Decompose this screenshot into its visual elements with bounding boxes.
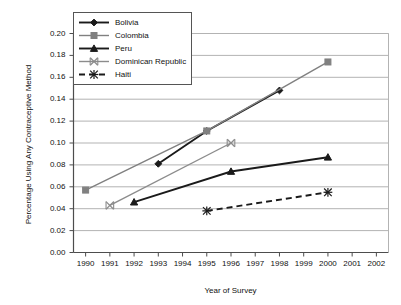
legend-label: Colombia	[111, 31, 149, 40]
y-tick-label: 0.04	[32, 204, 66, 213]
series-line	[134, 157, 328, 202]
legend-item-bolivia[interactable]: Bolivia	[77, 16, 186, 29]
legend-swatch-triangle-icon	[77, 42, 111, 55]
legend-item-dominican-republic[interactable]: Dominican Republic	[77, 55, 186, 68]
series-line	[158, 90, 279, 163]
y-tick-label: 0.16	[32, 72, 66, 81]
legend-label: Peru	[111, 44, 132, 53]
legend-label: Haiti	[111, 70, 131, 79]
y-tick-label: 0.14	[32, 94, 66, 103]
y-tick-label: 0.06	[32, 182, 66, 191]
y-tick-label: 0.08	[32, 160, 66, 169]
data-point-asterisk	[202, 206, 211, 215]
data-point-x-cross	[106, 202, 114, 210]
y-tick-label: 0.12	[32, 116, 66, 125]
chart-figure: Percentage Using Any Contraceptive Metho…	[0, 0, 401, 305]
y-tick-label: 0.10	[32, 138, 66, 147]
data-point-asterisk	[324, 188, 333, 197]
legend-item-peru[interactable]: Peru	[77, 42, 186, 55]
data-point-asterisk	[90, 70, 99, 79]
legend-item-colombia[interactable]: Colombia	[77, 29, 186, 42]
legend-swatch-asterisk-icon	[77, 68, 111, 81]
y-tick-label: 0.02	[32, 226, 66, 235]
data-point-square	[325, 59, 331, 65]
x-axis-title: Year of Survey	[73, 286, 388, 295]
series-line	[110, 143, 231, 205]
legend-swatch-x-cross-icon	[77, 55, 111, 68]
y-tick-label: 0.20	[32, 29, 66, 38]
series-line	[207, 192, 328, 211]
data-point-diamond	[91, 19, 98, 26]
y-tick-label: 0.00	[32, 248, 66, 257]
chart-legend: Bolivia Colombia Peru Dominican Republic…	[73, 12, 192, 85]
x-tick-label: 2002	[361, 259, 391, 268]
data-point-square	[91, 33, 97, 39]
legend-label: Bolivia	[111, 18, 139, 27]
y-tick-label: 0.18	[32, 50, 66, 59]
data-point-square	[83, 187, 89, 193]
legend-item-haiti[interactable]: Haiti	[77, 68, 186, 81]
data-point-square	[204, 128, 210, 134]
legend-swatch-diamond-icon	[77, 16, 111, 29]
legend-label: Dominican Republic	[111, 57, 186, 66]
legend-swatch-square-icon	[77, 29, 111, 42]
